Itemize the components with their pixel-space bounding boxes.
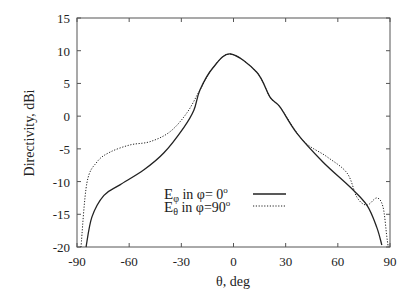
y-tick-label: -10 — [53, 175, 70, 190]
y-tick-label: 15 — [57, 11, 70, 26]
y-tick-label: -15 — [53, 207, 70, 222]
x-tick-label: -60 — [120, 254, 137, 269]
legend: Eφ in φ= 0o Eθ in φ=90o — [164, 185, 286, 217]
y-tick-label: 0 — [64, 109, 71, 124]
plot-axes: -90-60-300306090-20-15-10-5051015 — [53, 11, 397, 269]
x-tick-label: -90 — [68, 254, 85, 269]
x-axis-label: θ, deg — [216, 274, 250, 289]
plot-frame — [77, 18, 390, 247]
y-tick-label: 5 — [64, 76, 71, 91]
series-ephi-line — [86, 54, 382, 247]
plot-curves — [81, 54, 388, 247]
y-axis-label: Directivity, dBi — [22, 89, 37, 176]
y-tick-label: 10 — [57, 44, 70, 59]
x-tick-label: 60 — [331, 254, 344, 269]
directivity-chart: -90-60-300306090-20-15-10-5051015 Eφ in … — [0, 0, 418, 308]
x-tick-label: -30 — [173, 254, 190, 269]
x-tick-label: 90 — [384, 254, 397, 269]
x-tick-label: 30 — [279, 254, 292, 269]
series-etheta-line — [81, 54, 388, 247]
y-tick-label: -5 — [59, 142, 70, 157]
y-tick-label: -20 — [53, 240, 70, 255]
x-tick-label: 0 — [230, 254, 237, 269]
